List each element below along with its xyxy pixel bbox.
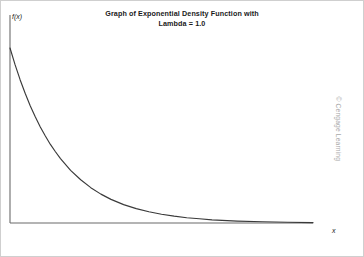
chart-figure: Graph of Exponential Density Function wi… [0, 0, 364, 257]
copyright-watermark: © Cengage Learning [335, 97, 342, 193]
x-axis-label: x [332, 227, 336, 234]
y-axis-label: f(x) [12, 13, 22, 20]
exponential-curve [10, 48, 313, 223]
exponential-density-plot [1, 1, 364, 257]
